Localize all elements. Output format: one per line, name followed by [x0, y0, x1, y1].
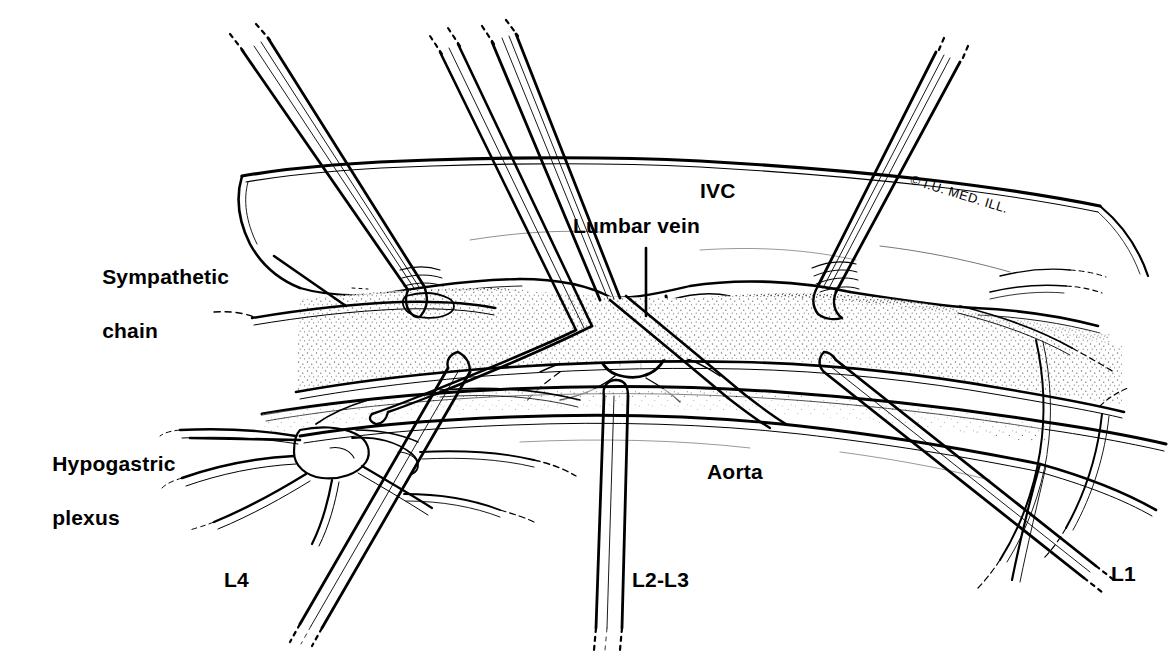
label-sympathetic-chain: Sympathetic chain	[78, 236, 229, 371]
label-ivc: IVC	[700, 178, 736, 204]
label-hypogastric-plexus: Hypogastric plexus	[28, 423, 176, 558]
label-hypogastric-plexus-line2: plexus	[52, 506, 120, 529]
label-lumbar-vein: Lumbar vein	[573, 213, 700, 239]
label-sympathetic-chain-line2: chain	[102, 319, 158, 342]
medical-illustration-figure: IVC Lumbar vein Sympathetic chain Hypoga…	[0, 0, 1174, 662]
label-l1: L1	[1111, 561, 1136, 587]
label-l2-l3: L2-L3	[632, 567, 689, 593]
label-hypogastric-plexus-line1: Hypogastric	[52, 452, 176, 475]
label-l4: L4	[224, 567, 249, 593]
label-sympathetic-chain-line1: Sympathetic	[102, 265, 229, 288]
label-aorta: Aorta	[707, 459, 763, 485]
